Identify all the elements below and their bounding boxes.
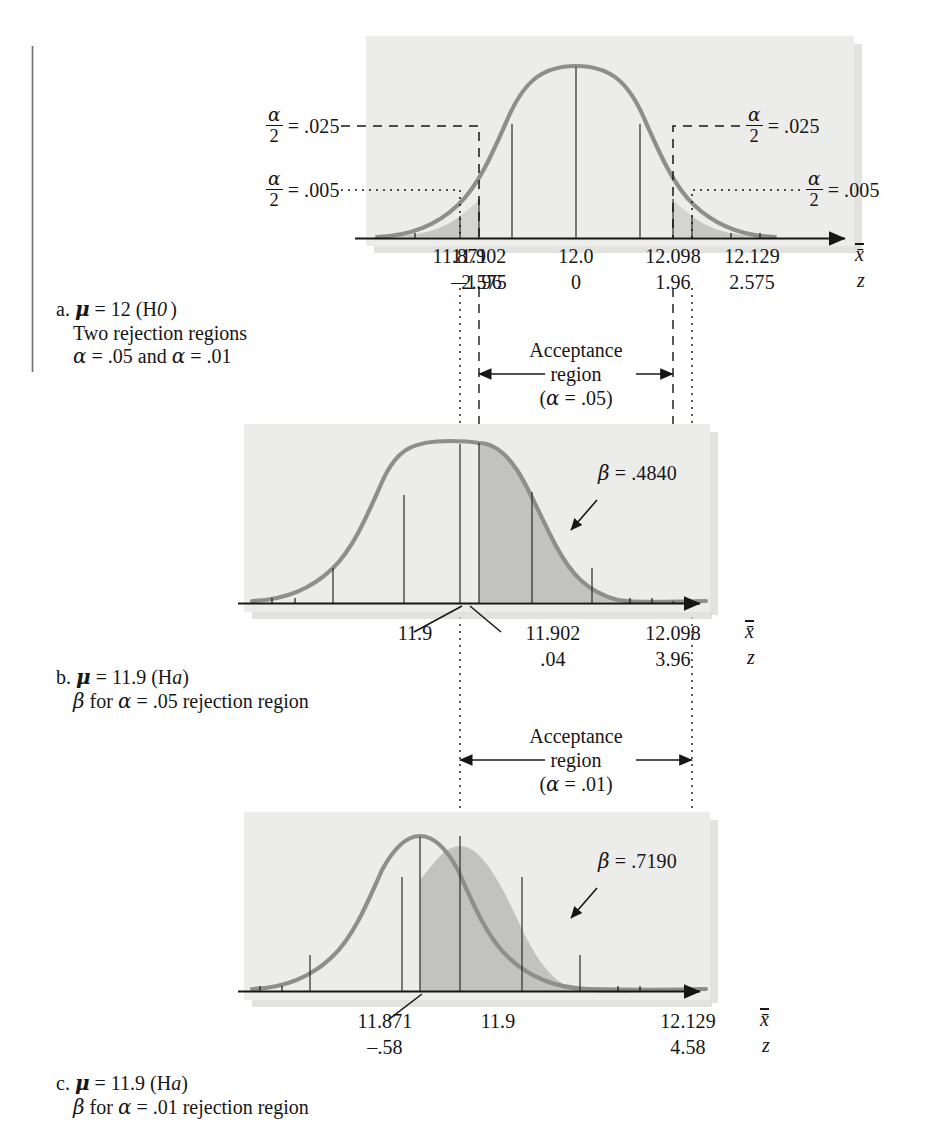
caption-c-line1: c. μ = 11.9 (Ha): [56, 1072, 188, 1094]
acceptance-b-line1: Acceptance: [516, 338, 636, 362]
acceptance-b-line2: region: [516, 362, 636, 386]
panel-a-alpha-right-025: α 2 = .025: [746, 106, 820, 146]
panel-c-xtick-11871: 11.871: [325, 1010, 445, 1032]
panel-a-alpha-left-025: α 2 = .025: [266, 106, 340, 146]
acceptance-b-line3: (α = .05): [516, 386, 636, 410]
panel-c-group: [238, 812, 718, 1020]
panel-c-xtick-119: 11.9: [448, 1010, 548, 1032]
panel-a-axis-symbol-z: z: [857, 269, 865, 291]
panel-b-group: [238, 424, 718, 632]
figure-canvas: [0, 0, 931, 1136]
panel-a-alpha-right-005: α 2 = .005: [806, 170, 880, 210]
caption-a-line3: α = .05 and α = .01: [73, 345, 231, 367]
acceptance-c-line2: region: [516, 748, 636, 772]
panel-a-xtick-12129: 12.129: [692, 245, 812, 267]
panel-b-axis-symbol-z: z: [747, 646, 755, 668]
panel-a-ztick-m196: –1.96: [438, 271, 520, 293]
caption-c-line2: β for α = .01 rejection region: [73, 1096, 309, 1118]
panel-c-beta-label: β = .7190: [598, 850, 677, 872]
panel-c-ztick-458: 4.58: [628, 1036, 748, 1058]
panel-b-beta-label: β = .4840: [598, 462, 677, 484]
panel-c-axis-symbol-xbar: x̄: [760, 1008, 769, 1030]
panel-a-axis-symbol-xbar: x̄: [855, 243, 864, 265]
figure-root: α 2 = .025 α 2 = .005 α 2 = .025 α 2 = .…: [0, 0, 931, 1136]
panel-b-shadow: [710, 432, 718, 615]
caption-b-line1: b. μ = 11.9 (Ha): [56, 666, 189, 688]
acceptance-c-line3: (α = .01): [516, 772, 636, 796]
panel-a-shadow: [854, 44, 862, 249]
panel-a-alpha-left-005: α 2 = .005: [266, 170, 340, 210]
caption-a-line2: Two rejection regions: [73, 322, 247, 344]
panel-b-axis-symbol-xbar: x̄: [745, 620, 754, 642]
panel-a-ztick-2575: 2.575: [692, 271, 812, 293]
panel-a-ztick-0: 0: [536, 271, 616, 293]
caption-b-line2: β for α = .05 rejection region: [73, 690, 309, 712]
panel-b-xtick-12098: 12.098: [613, 622, 733, 644]
panel-b-ztick-396: 3.96: [613, 648, 733, 670]
panel-b-xtick-119: 11.9: [360, 622, 470, 644]
caption-a-line1: a. μ = 12 (H0 ): [56, 298, 177, 323]
panel-a-xtick-11902: 11.902: [419, 245, 539, 267]
panel-c-shadow: [710, 820, 718, 1003]
panel-b-xtick-11902: 11.902: [498, 622, 608, 644]
panel-c-ztick-m58: –.58: [335, 1036, 435, 1058]
panel-b-ztick-04: .04: [498, 648, 608, 670]
panel-c-shadow-bottom: [252, 1000, 712, 1007]
panel-c-axis-symbol-z: z: [762, 1034, 770, 1056]
panel-a-xtick-120: 12.0: [536, 245, 616, 267]
panel-c-xtick-12129: 12.129: [628, 1010, 748, 1032]
acceptance-c-line1: Acceptance: [516, 724, 636, 748]
